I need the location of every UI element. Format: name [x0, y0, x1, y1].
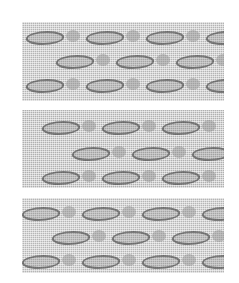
leaf-motif	[199, 207, 224, 221]
shade-blob	[92, 230, 106, 242]
leaf-motif	[159, 121, 202, 135]
leaf-motif	[189, 147, 224, 161]
leaf-motif	[69, 147, 112, 161]
shade-blob	[202, 120, 216, 132]
motif-row	[22, 254, 224, 268]
leaf-motif	[143, 31, 186, 45]
shade-blob	[82, 170, 96, 182]
swatch-bottom	[22, 198, 224, 273]
shade-blob	[126, 78, 140, 90]
shade-blob	[202, 170, 216, 182]
shade-blob	[122, 206, 136, 218]
leaf-motif	[99, 171, 142, 185]
leaf-motif	[79, 207, 122, 221]
shade-blob	[82, 120, 96, 132]
leaf-motif	[129, 147, 172, 161]
shade-blob	[216, 54, 224, 66]
leaf-motif	[79, 255, 122, 269]
motif-row	[22, 170, 224, 184]
leaf-motif	[199, 255, 224, 269]
leaf-motif	[39, 121, 82, 135]
shade-blob	[186, 78, 200, 90]
shade-blob	[122, 254, 136, 266]
leaf-motif	[83, 79, 126, 93]
shade-blob	[182, 254, 196, 266]
leaf-motif	[39, 171, 82, 185]
shade-blob	[212, 230, 224, 242]
shade-blob	[182, 206, 196, 218]
leaf-motif	[139, 255, 182, 269]
motif-row	[22, 120, 224, 134]
shade-blob	[66, 30, 80, 42]
motif-row	[22, 146, 224, 160]
leaf-motif	[23, 31, 66, 45]
shade-blob	[152, 230, 166, 242]
leaf-motif	[99, 121, 142, 135]
leaf-motif	[173, 55, 216, 69]
motif-row	[22, 230, 224, 244]
leaf-motif	[169, 231, 212, 245]
leaf-motif	[203, 79, 224, 93]
shade-blob	[62, 254, 76, 266]
leaf-motif	[83, 31, 126, 45]
leaf-motif	[22, 207, 63, 221]
swatch-top	[22, 22, 224, 101]
leaf-motif	[139, 207, 182, 221]
leaf-motif	[109, 231, 152, 245]
leaf-motif	[53, 55, 96, 69]
shade-blob	[66, 78, 80, 90]
shade-blob	[172, 146, 186, 158]
shade-blob	[126, 30, 140, 42]
shade-blob	[142, 120, 156, 132]
leaf-motif	[159, 171, 202, 185]
shade-blob	[186, 30, 200, 42]
shade-blob	[96, 54, 110, 66]
leaf-motif	[22, 255, 63, 269]
shade-blob	[142, 170, 156, 182]
leaf-motif	[113, 55, 156, 69]
swatch-middle	[22, 110, 224, 188]
leaf-motif	[203, 31, 224, 45]
motif-row	[22, 206, 224, 220]
leaf-motif	[23, 79, 66, 93]
leaf-motif	[49, 231, 92, 245]
shade-blob	[62, 206, 76, 218]
motif-row	[22, 30, 224, 44]
motif-row	[22, 54, 224, 68]
leaf-motif	[143, 79, 186, 93]
motif-row	[22, 78, 224, 92]
shade-blob	[156, 54, 170, 66]
shade-blob	[112, 146, 126, 158]
